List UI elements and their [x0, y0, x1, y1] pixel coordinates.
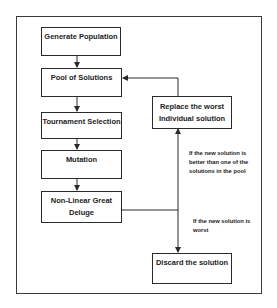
- discard-solution-label: Discard the solution: [156, 257, 228, 269]
- generate-population-box: Generate Population: [41, 27, 121, 56]
- generate-population-label: Generate Population: [44, 31, 117, 43]
- mutation-label: Mutation: [66, 154, 97, 166]
- replace-worst-box: Replace the worst Individual solution: [152, 96, 232, 129]
- non-linear-great-deluge-box: Non-Linear Great Deluge: [41, 191, 122, 223]
- replace-worst-label: Replace the worst Individual solution: [153, 101, 231, 125]
- mutation-box: Mutation: [41, 150, 122, 179]
- arrow-replace-to-pool: [123, 78, 178, 96]
- pool-of-solutions-box: Pool of Solutions: [41, 68, 122, 97]
- pool-of-solutions-label: Pool of Solutions: [51, 72, 113, 84]
- tournament-selection-label: Tournament Selection: [42, 116, 120, 128]
- tournament-selection-box: Tournament Selection: [41, 112, 122, 139]
- non-linear-great-deluge-label: Non-Linear Great Deluge: [42, 195, 121, 219]
- discard-solution-box: Discard the solution: [152, 253, 232, 284]
- condition-worst-note: If the new solution is worst: [193, 217, 255, 235]
- condition-better-note: If the new solution is better than one o…: [189, 149, 255, 176]
